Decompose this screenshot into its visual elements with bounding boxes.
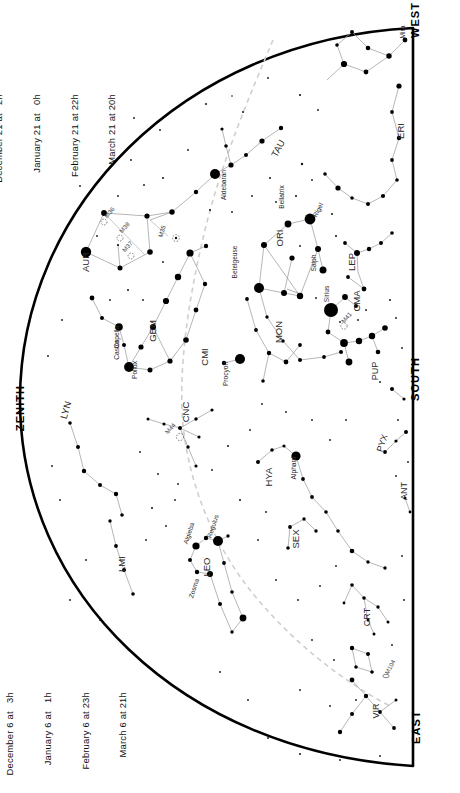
constellation-label-pyx: PYX (375, 433, 390, 453)
date-line: March 21 at 20h (106, 94, 119, 234)
star-label-saiph: Saiph (310, 254, 318, 271)
star-label-algieba: Algieba (182, 521, 197, 545)
ecliptic-line (182, 40, 390, 706)
constellation-label-cmi: CMI (199, 348, 210, 365)
star-label-regulus: Regulus (206, 513, 221, 539)
constellation-label-mon: MON (273, 321, 284, 343)
date-line: February 21 at 22h (68, 94, 81, 234)
constellation-label-gem: GEM (147, 320, 158, 342)
constellation-label-sex: SEX (290, 529, 301, 549)
constellation-label-cnc: CNC (180, 402, 191, 423)
star-label-sirius: Sirius (323, 285, 330, 302)
direction-label-east: EAST (410, 710, 422, 744)
star-name-labels: AldebaranBetelgeuseBellatrixRigelSaiphMi… (113, 25, 406, 599)
constellation-label-aur: AUR (80, 252, 91, 272)
star-label-procyon: Procyon (222, 362, 230, 387)
deep-sky-labels: M36M38M37M35M41M44M104 (103, 205, 397, 675)
star-label-mira: Mira (399, 25, 406, 38)
constellation-label-ant: ANT (399, 481, 409, 500)
date-line: February 6 at 23h (79, 692, 92, 793)
date-line: March 6 at 21h (117, 692, 130, 793)
constellation-label-lmi: LMI (116, 556, 127, 572)
constellation-label-lyn: LYN (58, 400, 74, 420)
date-line: December 21 at 2h (0, 94, 6, 234)
star-label-alphard: Alphard (290, 456, 298, 479)
dso-label-m44: M44 (164, 421, 177, 435)
direction-label-south: SOUTH (409, 357, 421, 401)
constellation-label-tau: TAU (269, 138, 287, 159)
constellation-label-lep: LEP (346, 253, 357, 271)
star-label-zosma: Zosma (187, 577, 200, 599)
star-label-aldebaran: Aldebaran (220, 170, 227, 200)
date-line: January 21 at 0h (31, 94, 44, 234)
constellation-label-eri: ERI (395, 123, 406, 139)
star-label-bellatrix: Bellatrix (278, 185, 285, 209)
constellation-label-cma: CMA (351, 290, 362, 312)
date-line: December 6 at 3h (4, 692, 17, 793)
date-list-bottom: November 6 at 5h December 6 at 3h Januar… (0, 692, 155, 793)
constellation-label-ori: ORI (274, 230, 285, 247)
star-label-castor: Castor (113, 339, 120, 359)
constellation-label-leo: LEO (201, 557, 212, 576)
date-line: January 6 at 1h (42, 692, 55, 793)
dso-label-m35: M35 (156, 224, 167, 238)
direction-label-zenith: ZENITH (14, 385, 26, 431)
constellation-label-crt: CRT (362, 607, 372, 626)
dso-label-m104: M104 (383, 658, 397, 675)
direction-label-west: WEST (409, 2, 421, 38)
star-label-pollux: Pollux (131, 360, 138, 379)
constellation-label-pup: PUP (370, 362, 380, 381)
dso-label-m37: M37 (121, 239, 135, 253)
constellation-label-hya: HYA (263, 467, 274, 486)
constellation-label-vir: VIR (371, 703, 381, 719)
star-chart: TAUORIERILEPCMACMIMONAURGEMCNCLYNLMILEOS… (0, 0, 460, 793)
date-list-top: November 21 at 4h December 21 at 2h Janu… (0, 94, 144, 234)
star-label-betelgeuse: Betelgeuse (231, 245, 239, 278)
star-label-rigel: Rigel (311, 201, 325, 218)
